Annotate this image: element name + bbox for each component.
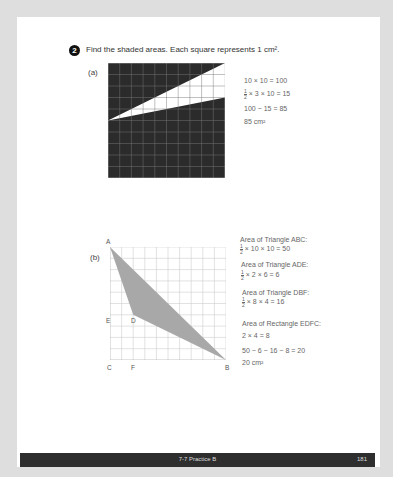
triangle-ade-calc: 12× 2 × 6 = 6 <box>241 270 279 281</box>
part-a-grid-figure <box>108 63 225 178</box>
rectangle-edfc-calc: 2 × 4 = 8 <box>242 331 270 340</box>
part-b-label: (b) <box>90 253 100 262</box>
part-b-answer: 20 cm² <box>242 358 263 367</box>
footer-section-title: 7-7 Practice B <box>20 456 375 462</box>
final-calc: 50 − 6 − 16 − 8 = 20 <box>242 346 305 355</box>
triangle-dbf-calc: 12× 8 × 4 = 16 <box>242 297 284 308</box>
point-d-label: D <box>131 317 136 324</box>
part-a-answer: 85 cm² <box>244 117 265 126</box>
point-a-label: A <box>106 238 110 245</box>
triangle-dbf-title: Area of Triangle DBF: <box>242 288 309 297</box>
triangle-ade-title: Area of Triangle ADE: <box>241 260 308 269</box>
page-footer-bar: 7-7 Practice B 181 <box>20 453 375 467</box>
part-a-work-line1: 10 × 10 = 100 <box>244 76 287 85</box>
part-a-label: (a) <box>88 68 98 77</box>
part-a-work-line3: 100 − 15 = 85 <box>244 104 287 113</box>
page-number: 181 <box>357 456 367 462</box>
fraction-half: 12 <box>244 89 247 100</box>
triangle-abc-calc: 12× 10 × 10 = 50 <box>240 244 290 255</box>
part-a-work-line2: 12× 3 × 10 = 15 <box>244 89 290 100</box>
fraction-half: 12 <box>242 297 245 308</box>
part-b-grid-figure <box>110 247 226 360</box>
point-e-label: E <box>106 317 110 324</box>
triangle-abc-title: Area of Triangle ABC: <box>240 235 307 244</box>
point-b-label: B <box>225 364 229 371</box>
fraction-half: 12 <box>240 244 243 255</box>
rectangle-edfc-title: Area of Rectangle EDFC: <box>242 319 321 328</box>
question-text: Find the shaded areas. Each square repre… <box>86 45 279 54</box>
question-number-badge: 2 <box>69 45 80 56</box>
fraction-half: 12 <box>241 270 244 281</box>
point-c-label: C <box>107 364 112 371</box>
point-f-label: F <box>131 364 135 371</box>
